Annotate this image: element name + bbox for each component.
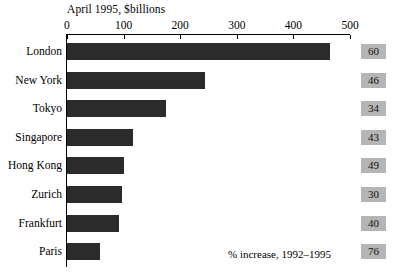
y-axis-line	[66, 34, 67, 267]
category-label-london: London	[26, 45, 62, 58]
bar-frankfurt	[67, 215, 119, 232]
bar-chart: April 1995, $billions 0100200300400500 L…	[0, 0, 397, 279]
value-box-frankfurt: 40	[361, 216, 386, 231]
category-label-new-york: New York	[15, 74, 62, 87]
x-tick-300	[237, 35, 238, 39]
x-tick-200	[180, 35, 181, 39]
x-tick-0	[67, 35, 68, 39]
bar-tokyo	[67, 100, 166, 117]
x-tick-label-200: 200	[172, 19, 189, 32]
value-box-paris: 76	[361, 244, 386, 259]
x-tick-label-300: 300	[228, 19, 245, 32]
x-tick-label-500: 500	[341, 19, 358, 32]
value-box-singapore: 43	[361, 130, 386, 145]
category-label-hong-kong: Hong Kong	[8, 159, 62, 172]
value-box-london: 60	[361, 44, 386, 59]
bar-paris	[67, 243, 100, 260]
category-label-frankfurt: Frankfurt	[19, 217, 62, 230]
bar-hong-kong	[67, 157, 124, 174]
bar-london	[67, 43, 330, 60]
x-tick-label-0: 0	[64, 19, 70, 32]
value-box-new-york: 46	[361, 73, 386, 88]
x-axis-line	[66, 34, 350, 35]
x-tick-label-400: 400	[285, 19, 302, 32]
category-label-tokyo: Tokyo	[33, 102, 62, 115]
value-box-hong-kong: 49	[361, 158, 386, 173]
x-tick-400	[293, 35, 294, 39]
chart-title: April 1995, $billions	[67, 3, 165, 16]
secondary-axis-annotation: % increase, 1992–1995	[228, 248, 331, 261]
x-tick-100	[124, 35, 125, 39]
bar-new-york	[67, 72, 205, 89]
value-box-tokyo: 34	[361, 101, 386, 116]
x-tick-500	[350, 35, 351, 39]
category-label-zurich: Zurich	[31, 188, 62, 201]
value-box-zurich: 30	[361, 187, 386, 202]
bar-zurich	[67, 186, 122, 203]
bar-singapore	[67, 129, 133, 146]
x-tick-label-100: 100	[115, 19, 132, 32]
category-label-singapore: Singapore	[15, 131, 62, 144]
category-label-paris: Paris	[39, 245, 62, 258]
